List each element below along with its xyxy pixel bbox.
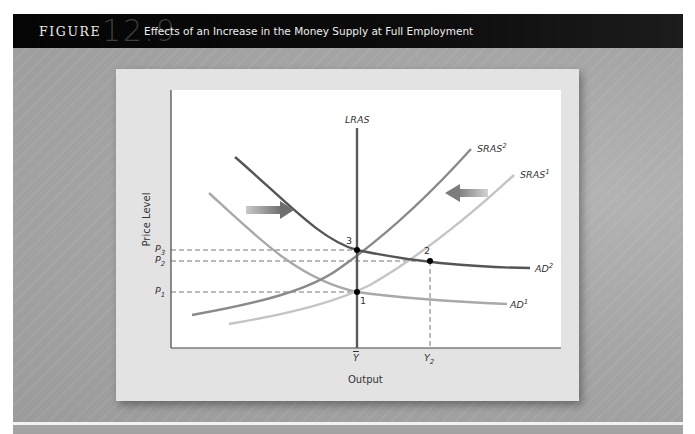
ybar-tick: Y	[353, 352, 359, 363]
equilibrium-point-2	[427, 258, 433, 264]
point-1-label: 1	[360, 295, 366, 306]
p2-tick-sub: 2	[161, 260, 165, 268]
sras1-label-sup: 1	[545, 168, 549, 176]
diagram-plot	[0, 0, 695, 434]
lras-label: LRAS	[345, 114, 369, 125]
sras2-label: SRAS2	[477, 142, 507, 154]
sras2-label-text: SRAS	[477, 143, 502, 154]
p2-tick: P2	[155, 254, 165, 268]
ad1-label: AD1	[510, 298, 528, 310]
y-axis-label: Price Level	[141, 180, 152, 260]
sras1-label-text: SRAS	[520, 169, 545, 180]
point-2-label: 2	[424, 245, 430, 256]
p1-tick-sub: 1	[161, 291, 165, 299]
sras2-label-sup: 2	[502, 142, 506, 150]
p1-tick: P1	[155, 285, 165, 299]
equilibrium-point-3	[354, 247, 360, 253]
ad2-label: AD2	[535, 262, 553, 274]
sras1-label: SRAS1	[520, 168, 550, 180]
ad2-label-sup: 2	[549, 262, 553, 270]
x-axis-label: Output	[348, 374, 383, 385]
y2-tick-sub: 2	[430, 358, 434, 366]
y2-tick: Y2	[424, 352, 434, 366]
ad2-label-text: AD	[535, 263, 549, 274]
point-3-label: 3	[346, 235, 352, 246]
plot-area	[171, 90, 561, 348]
ad1-label-sup: 1	[524, 298, 528, 306]
ad1-label-text: AD	[510, 299, 524, 310]
